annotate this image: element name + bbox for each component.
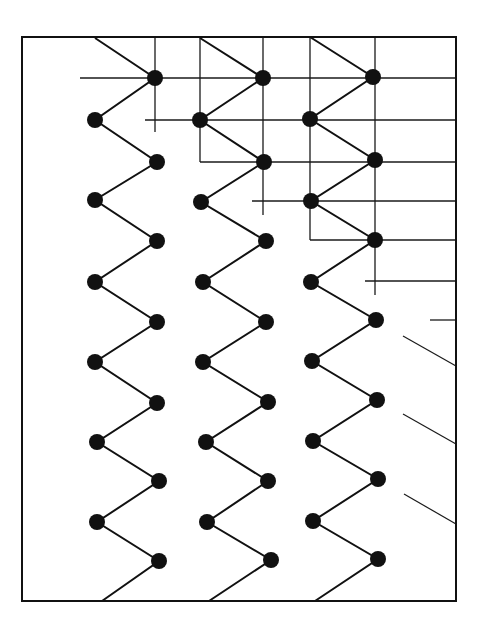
- chain-node: [149, 314, 165, 330]
- chain-node: [305, 513, 321, 529]
- chain-node: [302, 111, 318, 127]
- chain-node: [367, 232, 383, 248]
- chain-node: [147, 70, 163, 86]
- chain-node: [89, 514, 105, 530]
- chain-node: [260, 473, 276, 489]
- right-edge-stubs: [403, 336, 456, 524]
- chain-node: [258, 233, 274, 249]
- chain-node: [192, 112, 208, 128]
- chain-node: [87, 274, 103, 290]
- chain-node: [87, 354, 103, 370]
- chain-node: [149, 233, 165, 249]
- outer-frame: [22, 37, 456, 601]
- chain-node: [255, 70, 271, 86]
- chain-zigzag-line: [95, 38, 159, 601]
- chain-node: [370, 551, 386, 567]
- chain-node: [304, 353, 320, 369]
- chain-node: [256, 154, 272, 170]
- chain-node: [305, 433, 321, 449]
- chain-node: [151, 473, 167, 489]
- chain-node: [195, 274, 211, 290]
- chain-node: [303, 274, 319, 290]
- chain-node: [149, 395, 165, 411]
- diagonal-stub: [403, 414, 456, 444]
- chain-node: [368, 312, 384, 328]
- chain-zigzag-line: [310, 37, 378, 601]
- chain-node: [193, 194, 209, 210]
- chain-node: [260, 394, 276, 410]
- chain-2: [192, 38, 279, 601]
- chain-node: [149, 154, 165, 170]
- chain-node: [87, 112, 103, 128]
- chain-node: [369, 392, 385, 408]
- zigzag-chains: [87, 37, 386, 601]
- chain-node: [195, 354, 211, 370]
- chain-node: [365, 69, 381, 85]
- diagram-canvas: [0, 0, 480, 631]
- chain-node: [263, 552, 279, 568]
- diagonal-stub: [403, 336, 456, 366]
- chain-node: [199, 514, 215, 530]
- chain-node: [89, 434, 105, 450]
- chain-3: [302, 37, 386, 601]
- chain-node: [367, 152, 383, 168]
- diagonal-stub: [404, 494, 456, 524]
- chain-node: [87, 192, 103, 208]
- chain-node: [151, 553, 167, 569]
- chain-node: [370, 471, 386, 487]
- zigzag-grid-diagram: [0, 0, 480, 631]
- chain-node: [258, 314, 274, 330]
- chain-node: [303, 193, 319, 209]
- chain-node: [198, 434, 214, 450]
